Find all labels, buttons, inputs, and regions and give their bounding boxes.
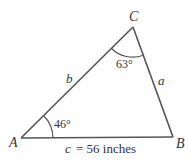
side-c-value: = 56 inches [76,141,136,156]
vertex-label-c: C [129,9,139,24]
angle-arc-a [44,116,54,139]
side-label-c: c = 56 inches [65,141,136,156]
angle-arc-c [112,49,144,58]
vertex-label-a: A [8,135,18,150]
angle-label-c: 63° [116,57,133,71]
side-c [21,137,173,138]
side-c-letter: c [65,141,71,156]
triangle-diagram: C A B b a c = 56 inches 46° 63° [0,0,188,163]
vertex-label-b: B [176,136,185,151]
side-label-b: b [66,71,73,86]
side-a [133,27,173,137]
side-b [21,27,133,138]
side-label-a: a [158,73,165,88]
angle-label-a: 46° [54,117,71,131]
